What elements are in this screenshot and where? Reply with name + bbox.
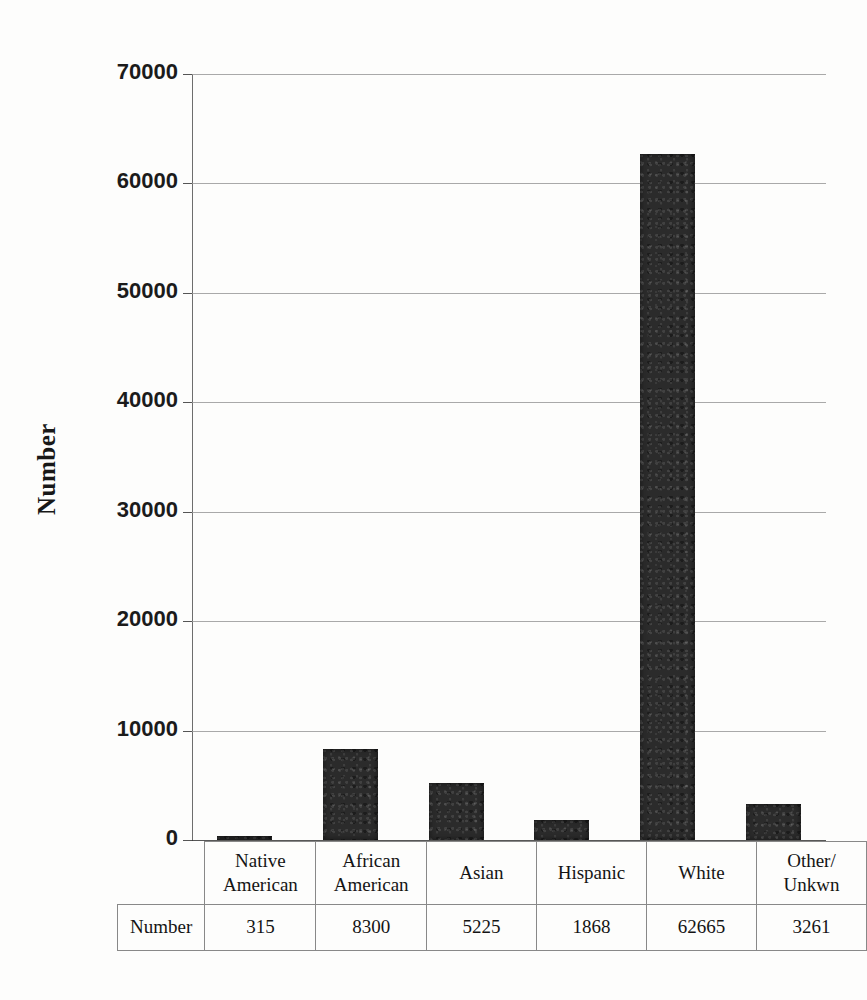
table-category-cell-0: NativeAmerican [205,842,316,905]
table-category-label: Other/ [760,849,863,873]
table-row-label: Number [118,905,205,951]
table-category-label: Asian [430,861,533,885]
table-corner-cell [118,842,205,905]
table-value-cell-3: 1868 [536,905,647,951]
gridline-30000 [192,512,826,513]
y-axis-title: Number [33,389,61,549]
plot-area [192,74,826,840]
table-category-label: Unkwn [760,873,863,897]
bar-african-american [323,749,378,840]
table-value-cell-1: 8300 [316,905,427,951]
table-category-cell-1: AfricanAmerican [316,842,427,905]
table-category-label: African [319,849,423,873]
bar-chart-figure: Number 010000200003000040000500006000070… [0,0,867,1000]
table-value-cell-4: 62665 [647,905,757,951]
table-category-cell-2: Asian [427,842,537,905]
y-tick-label-text: 60000 [117,168,178,194]
table-category-label: Hispanic [540,861,644,885]
table-value-cell-0: 315 [205,905,316,951]
bar-hispanic [534,820,589,840]
gridline-70000 [192,74,826,75]
gridline-40000 [192,402,826,403]
bar-asian [429,783,484,840]
table-category-label: White [650,861,753,885]
table-category-label: American [319,873,423,897]
table-category-cell-3: Hispanic [536,842,647,905]
gridline-50000 [192,293,826,294]
table-category-cell-4: White [647,842,757,905]
y-tick-label-text: 20000 [117,606,178,632]
table-row-categories: NativeAmericanAfricanAmericanAsianHispan… [118,842,867,905]
table-value-cell-2: 5225 [427,905,537,951]
gridline-20000 [192,621,826,622]
gridline-60000 [192,183,826,184]
y-tick-label-text: 30000 [117,497,178,523]
table-category-cell-5: Other/Unkwn [756,842,866,905]
y-tick-label-text: 50000 [117,278,178,304]
bar-white [640,154,695,840]
gridline-10000 [192,731,826,732]
table-value-cell-5: 3261 [756,905,866,951]
y-tick-label-text: 10000 [117,716,178,742]
data-table: NativeAmericanAfricanAmericanAsianHispan… [117,841,867,951]
y-tick-label-text: 70000 [117,59,178,85]
table-row-values: Number 315830052251868626653261 [118,905,867,951]
table-category-label: Native [208,849,312,873]
table-category-label: American [208,873,312,897]
y-tick-label-text: 40000 [117,387,178,413]
bar-native-american [217,836,272,840]
bar-other-unkwn [746,804,801,840]
